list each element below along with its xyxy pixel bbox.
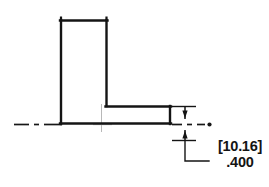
horizontal-centerline-right [172, 122, 212, 126]
dimension-leader-line [185, 141, 209, 161]
angle-profile-outline [60, 20, 171, 124]
engineering-drawing-canvas: [10.16] .400 [0, 0, 269, 187]
thickness-dimension-line [182, 107, 187, 141]
thickness-dimension-text: [10.16] .400 [212, 139, 268, 170]
dimension-imperial-value: .400 [212, 155, 268, 170]
dimension-metric-value: [10.16] [212, 139, 268, 154]
